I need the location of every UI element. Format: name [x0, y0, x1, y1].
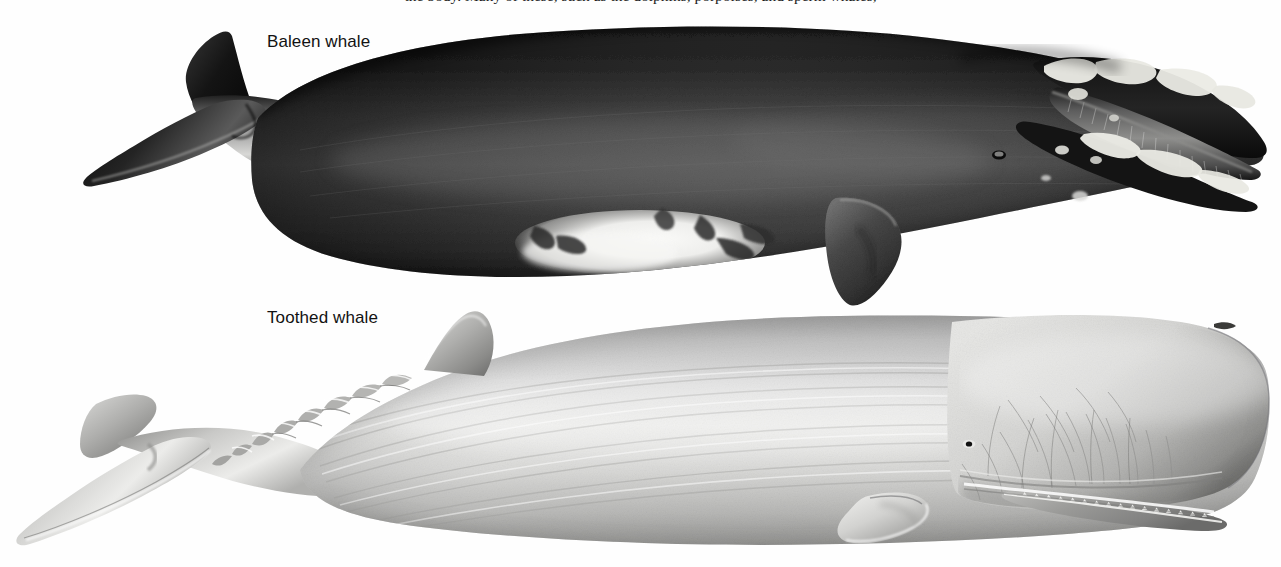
toothed-whale-label: Toothed whale	[267, 308, 378, 328]
toothed-whale-eye	[963, 440, 976, 448]
illustration-page: the body. Many of these, such as the dol…	[0, 0, 1281, 567]
whale-comparison-figure	[0, 0, 1281, 567]
baleen-whale-eye	[992, 150, 1006, 159]
baleen-whale-label: Baleen whale	[267, 32, 370, 52]
clipped-caption-line: the body. Many of these, such as the dol…	[0, 0, 1281, 5]
